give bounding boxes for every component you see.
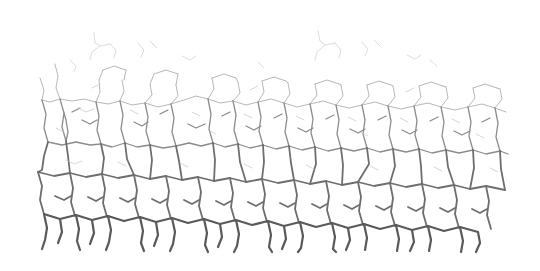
crack-network-image <box>0 0 540 271</box>
crack-pattern-figure: Dried mud crack network <box>0 0 540 271</box>
